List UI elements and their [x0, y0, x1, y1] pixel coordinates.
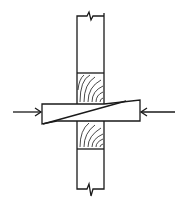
folding-wedge-diagram — [0, 0, 183, 211]
force-arrow-right — [141, 108, 175, 116]
force-arrow-left — [13, 108, 41, 116]
post-lower — [77, 149, 104, 196]
end-grain-block-upper — [77, 73, 104, 104]
folding-wedges — [42, 100, 140, 124]
end-grain-block-lower — [77, 121, 104, 149]
post-upper — [77, 12, 104, 73]
